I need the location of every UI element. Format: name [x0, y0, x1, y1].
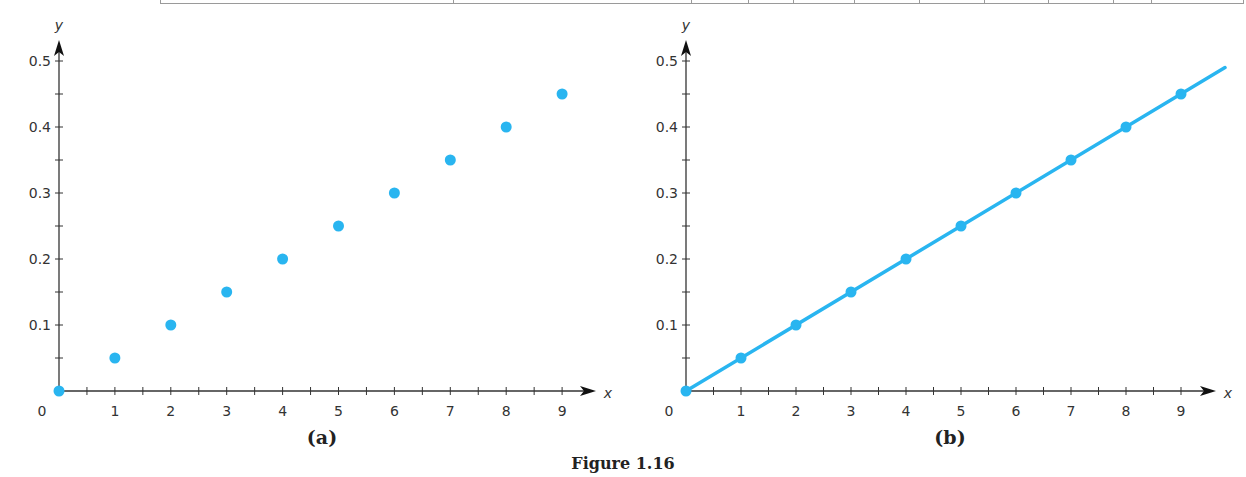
y-tick-label: 0.1 [656, 317, 678, 333]
x-tick-label: 4 [902, 403, 911, 419]
x-tick-label: 7 [1067, 403, 1076, 419]
panel-a-plot: 1234567890.10.20.30.40.50xy [29, 17, 613, 419]
data-point [445, 155, 456, 166]
x-tick-label: 2 [166, 403, 175, 419]
x-axis-label: x [603, 385, 613, 401]
data-point [277, 254, 288, 265]
data-point [333, 221, 344, 232]
y-axis-label: y [681, 17, 691, 33]
y-tick-label: 0.3 [29, 185, 51, 201]
trend-line [686, 68, 1225, 391]
data-point [54, 386, 65, 397]
y-tick-label: 0.3 [656, 185, 678, 201]
y-tick-label: 0.4 [29, 119, 51, 135]
x-tick-label: 5 [334, 403, 343, 419]
panel-b-caption: (b) [934, 426, 965, 448]
data-point [501, 122, 512, 133]
figure-canvas: 1234567890.10.20.30.40.50xy 1234567890.1… [0, 0, 1246, 477]
y-tick-label: 0.2 [29, 251, 51, 267]
data-point [557, 89, 568, 100]
figure-caption: Figure 1.16 [571, 454, 674, 473]
data-point [221, 287, 232, 298]
x-tick-label: 6 [1012, 403, 1021, 419]
data-point [736, 353, 747, 364]
y-tick-label: 0.1 [29, 317, 51, 333]
origin-label: 0 [665, 403, 674, 419]
data-point [1011, 188, 1022, 199]
y-tick-label: 0.2 [656, 251, 678, 267]
y-tick-label: 0.4 [656, 119, 678, 135]
data-point [109, 353, 120, 364]
data-point [791, 320, 802, 331]
data-point [1121, 122, 1132, 133]
x-tick-label: 8 [1122, 403, 1131, 419]
data-point [846, 287, 857, 298]
origin-label: 0 [38, 403, 47, 419]
x-tick-label: 3 [222, 403, 231, 419]
x-tick-label: 9 [1177, 403, 1186, 419]
x-tick-label: 9 [558, 403, 567, 419]
panel-b-plot: 1234567890.10.20.30.40.50xy [656, 17, 1233, 419]
x-tick-label: 2 [792, 403, 801, 419]
x-axis-label: x [1223, 385, 1233, 401]
x-tick-label: 7 [446, 403, 455, 419]
x-tick-label: 1 [737, 403, 746, 419]
x-tick-label: 4 [278, 403, 287, 419]
data-point [1066, 155, 1077, 166]
y-tick-label: 0.5 [29, 53, 51, 69]
data-point [901, 254, 912, 265]
data-point [165, 320, 176, 331]
panel-a-caption: (a) [307, 426, 337, 448]
x-tick-label: 6 [390, 403, 399, 419]
x-tick-label: 3 [847, 403, 856, 419]
x-tick-label: 5 [957, 403, 966, 419]
data-point [956, 221, 967, 232]
y-axis-label: y [54, 17, 64, 33]
x-tick-label: 8 [502, 403, 511, 419]
data-point [1176, 89, 1187, 100]
data-point [681, 386, 692, 397]
data-point [389, 188, 400, 199]
y-tick-label: 0.5 [656, 53, 678, 69]
x-tick-label: 1 [110, 403, 119, 419]
